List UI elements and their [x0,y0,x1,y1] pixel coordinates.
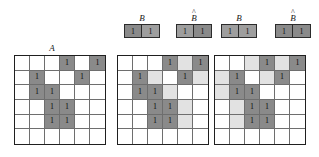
se-strip-bhat-1: 1 1 [176,24,212,38]
grid-cell [148,129,163,144]
grid-cell [45,71,60,86]
hat-accent-icon: ^ [291,9,295,17]
grid-erosion: 1111111111 [214,55,306,145]
grid-cell: 1 [60,56,75,71]
grid-cell [133,115,148,130]
grid-cell: 1 [245,100,260,115]
se-cell: 1 [142,25,159,37]
grid-cell [75,115,90,130]
grid-cell: 1 [148,100,163,115]
grid-cell [178,85,193,100]
grid-cell [260,71,275,86]
se-group-2: B 1 1 ^ B 1 1 [221,13,311,38]
grid-cell: 1 [45,100,60,115]
se-strip-b-1: 1 1 [124,24,160,38]
grid-cell: 1 [260,115,275,130]
grid-cell [215,100,230,115]
se-group-1: B 1 1 ^ B 1 1 [124,13,212,38]
se-cell: 1 [177,25,194,37]
grid-cell [163,71,178,86]
grid-cell [133,56,148,71]
grid-cell [90,100,105,115]
grid-cell [215,115,230,130]
grid-cell [118,71,133,86]
grid-wrap-a: A 1111111111 [14,55,106,145]
grid-cell [245,56,260,71]
grid-cell: 1 [245,85,260,100]
grid-cell [118,56,133,71]
se-label-bhat-2: ^ B [275,13,311,24]
grid-cell: 1 [75,71,90,86]
grid-cell [178,115,193,130]
grid-cell [15,115,30,130]
se-cell: 1 [222,25,239,37]
grid-cell: 1 [45,115,60,130]
grid-a: 1111111111 [14,55,106,145]
grid-cell [193,71,208,86]
grid-title-a: A [6,43,98,53]
grid-cell [90,129,105,144]
grid-cell [275,129,290,144]
grid-cell: 1 [163,56,178,71]
grid-cell: 1 [275,71,290,86]
grid-cell: 1 [30,71,45,86]
se-element-b-1: B 1 1 [124,13,160,38]
grid-cell [118,100,133,115]
grid-cell: 1 [90,56,105,71]
grid-cell [133,100,148,115]
grid-cell [275,100,290,115]
grid-cell [290,85,305,100]
grid-cell [30,115,45,130]
se-label-b-1: B [124,13,160,24]
grid-cell [290,71,305,86]
grid-cell [60,85,75,100]
se-cell: 1 [293,25,310,37]
grid-cell [118,85,133,100]
grid-cell: 1 [163,115,178,130]
grid-cell [15,100,30,115]
grid-cell: 1 [178,71,193,86]
se-element-bhat-1: ^ B 1 1 [176,13,212,38]
grid-cell: 1 [260,56,275,71]
grid-cell [230,56,245,71]
grid-cell [193,129,208,144]
grid-cell [75,100,90,115]
grid-cell [15,129,30,144]
grid-cell: 1 [45,85,60,100]
grid-cell [193,100,208,115]
se-strip-bhat-2: 1 1 [275,24,311,38]
grid-cell: 1 [260,100,275,115]
grid-cell: 1 [148,85,163,100]
grid-cell: 1 [133,71,148,86]
grid-cell [275,85,290,100]
grid-wrap-erosion: 1111111111 [214,55,306,145]
grid-cell [45,129,60,144]
grid-cell [148,71,163,86]
grid-cell [75,85,90,100]
grid-wrap-dilation: 1111111111 [117,55,209,145]
grid-cell: 1 [290,56,305,71]
grid-cell [90,85,105,100]
se-element-bhat-2: ^ B 1 1 [275,13,311,38]
grid-cell [118,115,133,130]
grid-dilation: 1111111111 [117,55,209,145]
grid-cell [290,100,305,115]
grid-cell [193,85,208,100]
grid-cell [245,129,260,144]
grid-cell [290,129,305,144]
grid-cell [215,71,230,86]
grid-cell [90,115,105,130]
hat-accent-icon: ^ [192,9,196,17]
grid-cell [45,56,60,71]
grid-cell [60,71,75,86]
grid-cell [245,71,260,86]
se-cell: 1 [276,25,293,37]
se-cell: 1 [194,25,211,37]
grid-cell [163,129,178,144]
grid-cell [290,115,305,130]
se-strip-b-2: 1 1 [221,24,257,38]
grid-cell [215,129,230,144]
grid-cell: 1 [30,85,45,100]
grid-cell [90,71,105,86]
grid-cell [260,85,275,100]
